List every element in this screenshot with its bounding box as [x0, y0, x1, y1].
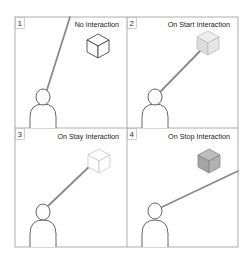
gaze-ray — [45, 17, 70, 96]
panel-label: On Stop Interaction — [168, 132, 230, 141]
interaction-states-diagram: 1 No interaction 2 On Start Interaction — [0, 0, 251, 260]
cube-icon — [88, 149, 110, 173]
cube-icon — [87, 34, 109, 58]
panel-label: No interaction — [75, 20, 119, 29]
person-icon — [30, 204, 56, 247]
person-icon — [30, 89, 56, 128]
panel-label: On Start Interaction — [168, 20, 230, 29]
cube-icon — [198, 149, 220, 173]
panel-number: 2 — [130, 19, 135, 28]
panel-number: 3 — [18, 130, 23, 139]
panel-number: 1 — [18, 19, 23, 28]
gaze-ray — [160, 46, 205, 92]
gaze-ray — [48, 163, 93, 206]
person-icon — [142, 203, 168, 247]
panel-4: 4 On Stop Interaction — [128, 129, 239, 248]
person-icon — [142, 89, 168, 128]
panel-3: 3 On Stay Interaction — [16, 129, 120, 248]
panel-label: On Stay Interaction — [57, 132, 119, 141]
panel-1: 1 No interaction — [16, 17, 120, 128]
gaze-ray — [162, 171, 238, 207]
panel-2: 2 On Start Interaction — [128, 18, 231, 129]
panel-number: 4 — [130, 130, 135, 139]
